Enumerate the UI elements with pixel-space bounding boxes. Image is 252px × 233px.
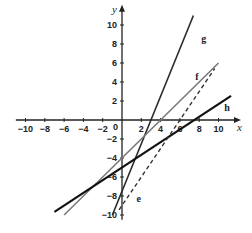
line-label-f: f: [195, 71, 199, 82]
y-tick-label: −2: [107, 134, 117, 144]
y-tick-label: −4: [107, 153, 117, 163]
x-tick-label: −6: [59, 124, 69, 134]
y-tick-label: 10: [107, 20, 117, 30]
line-labels: gfhe: [136, 33, 230, 204]
y-tick-label: 4: [112, 77, 117, 87]
x-tick-label: 2: [139, 124, 144, 134]
y-tick-label: 2: [112, 96, 117, 106]
y-tick-label: 8: [112, 39, 117, 49]
line-label-h: h: [224, 102, 230, 113]
function-lines: [54, 16, 231, 216]
y-axis-arrow-icon: [119, 5, 125, 12]
line-label-e: e: [136, 193, 141, 204]
x-tick-label: −10: [18, 124, 33, 134]
line-h: [54, 96, 231, 212]
x-tick-label: 4: [158, 124, 163, 134]
origin-label: 0: [113, 122, 118, 132]
x-tick-label: 10: [213, 124, 223, 134]
y-tick-label: −10: [102, 210, 117, 220]
x-tick-label: −8: [40, 124, 50, 134]
x-axis-label: x: [236, 121, 242, 133]
y-tick-label: 6: [112, 58, 117, 68]
coordinate-plot: −10−8−6−4−2246810108642−2−4−6−8−100xy gf…: [0, 0, 252, 233]
line-label-g: g: [201, 33, 206, 44]
x-tick-label: −4: [78, 124, 88, 134]
x-tick-label: −2: [98, 124, 108, 134]
line-f: [64, 63, 218, 215]
y-tick-label: −8: [107, 191, 117, 201]
line-g: [112, 16, 193, 216]
y-axis-label: y: [111, 3, 117, 15]
line-e: [119, 69, 215, 210]
x-tick-label: 8: [197, 124, 202, 134]
